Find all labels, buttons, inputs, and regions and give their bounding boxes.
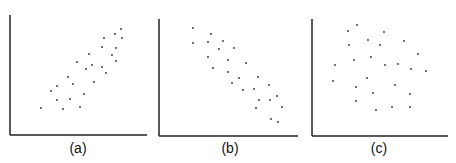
data-point: [76, 61, 78, 63]
data-point: [238, 77, 240, 79]
data-point: [269, 99, 271, 101]
data-point: [56, 99, 58, 101]
data-point: [379, 44, 381, 46]
data-point: [356, 24, 358, 26]
data-point: [91, 64, 93, 66]
data-point: [410, 68, 412, 70]
data-point: [257, 76, 259, 78]
data-point: [111, 54, 113, 56]
data-point: [367, 39, 369, 41]
data-point: [370, 56, 372, 58]
data-point: [115, 47, 117, 49]
data-point: [383, 31, 385, 33]
scatter-figure: [0, 0, 456, 163]
data-point: [391, 106, 393, 108]
data-point: [227, 59, 229, 61]
data-point: [394, 84, 396, 86]
data-point: [255, 107, 257, 109]
data-point: [403, 40, 405, 42]
data-point: [355, 100, 357, 102]
data-point: [281, 106, 283, 108]
panel-label-a: (a): [69, 141, 86, 155]
data-point: [227, 71, 229, 73]
data-point: [192, 42, 194, 44]
data-point: [72, 83, 74, 85]
data-point: [56, 85, 58, 87]
data-point: [115, 60, 117, 62]
data-point: [192, 27, 194, 29]
data-point: [207, 41, 209, 43]
data-point: [231, 82, 233, 84]
scatter-panel-a: [10, 15, 147, 135]
data-point: [277, 121, 279, 123]
data-point: [372, 92, 374, 94]
panel-label-c: (c): [371, 141, 387, 155]
data-point: [105, 72, 107, 74]
data-point: [101, 66, 103, 68]
data-point: [121, 37, 123, 39]
data-point: [384, 64, 386, 66]
data-point: [83, 93, 85, 95]
data-point: [79, 106, 81, 108]
scatter-panel-b: [159, 19, 298, 136]
data-point: [114, 33, 116, 35]
scatter-panel-c: [312, 19, 448, 136]
data-point: [253, 88, 255, 90]
data-point: [375, 109, 377, 111]
data-point: [210, 33, 212, 35]
data-point: [69, 98, 71, 100]
data-point: [207, 56, 209, 58]
data-point: [67, 76, 69, 78]
data-point: [258, 99, 260, 101]
data-point: [88, 53, 90, 55]
data-point: [347, 30, 349, 32]
data-point: [332, 80, 334, 82]
data-point: [355, 86, 357, 88]
data-point: [245, 62, 247, 64]
data-point: [417, 53, 419, 55]
data-point: [212, 67, 214, 69]
data-point: [353, 59, 355, 61]
data-point: [101, 46, 103, 48]
data-point: [93, 81, 95, 83]
data-point: [242, 89, 244, 91]
data-point: [276, 95, 278, 97]
data-point: [222, 40, 224, 42]
data-point: [268, 84, 270, 86]
data-point: [50, 90, 52, 92]
data-point: [103, 37, 105, 39]
data-point: [366, 77, 368, 79]
data-point: [120, 28, 122, 30]
data-point: [270, 118, 272, 120]
data-point: [334, 64, 336, 66]
data-point: [409, 93, 411, 95]
data-point: [85, 68, 87, 70]
data-point: [409, 106, 411, 108]
data-point: [348, 44, 350, 46]
data-point: [40, 107, 42, 109]
panel-label-b: (b): [221, 141, 238, 155]
data-point: [425, 70, 427, 72]
data-point: [218, 48, 220, 50]
data-point: [397, 63, 399, 65]
data-point: [233, 47, 235, 49]
data-point: [62, 108, 64, 110]
